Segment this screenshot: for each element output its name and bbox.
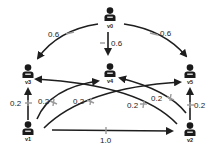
weight-v1-v4: 0.2 [38,97,50,106]
node-label: v0 [107,23,113,29]
node-v5[interactable]: v5 [185,64,196,85]
weight-v2-v4: 0.2 [151,94,163,103]
graph-diagram: 0.6 0.6 0.6 0.2 0.2 0.2 1.0 0.2 0.2 0.2 … [0,0,217,154]
edge-v0-v5 [124,24,186,56]
user-icon [23,64,34,78]
edge-v1-v2 [52,130,172,131]
weight-v0-v3: 0.6 [48,30,60,39]
node-label: v4 [107,78,114,84]
user-icon [23,121,34,135]
weight-v0-v4: 0.6 [111,39,123,48]
weight-v1-v2: 1.0 [100,136,112,145]
node-label: v5 [187,79,193,85]
edge-v1-v5 [44,82,180,128]
node-v3[interactable]: v3 [23,64,34,85]
node-label: v2 [187,137,193,143]
user-icon [185,122,196,136]
weight-v2-v3: 0.2 [127,101,139,110]
edge-v0-v3 [38,24,98,58]
weight-v2-v5: 0.2 [194,101,206,110]
user-icon [105,63,116,77]
node-v4[interactable]: v4 [105,63,116,84]
node-label: v3 [25,79,31,85]
weight-v0-v5: 0.6 [160,29,172,38]
node-v2[interactable]: v2 [185,122,196,143]
weight-v1-v3: 0.2 [10,99,22,108]
user-icon [105,7,116,21]
node-v1[interactable]: v1 [23,121,34,142]
weight-v1-v5: 0.2 [73,97,85,106]
user-icon [185,64,196,78]
node-label: v1 [25,136,31,142]
node-v0[interactable]: v0 [105,7,116,29]
